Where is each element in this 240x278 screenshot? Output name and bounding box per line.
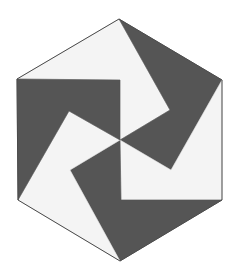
pieces-group: [17, 19, 222, 261]
hexagon-diagram: [0, 0, 240, 278]
pinwheel-hexagon-figure: [0, 0, 240, 278]
